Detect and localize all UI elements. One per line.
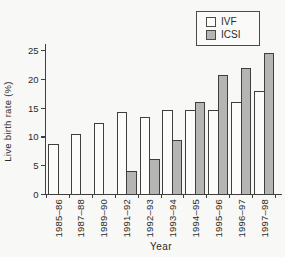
bar-icsi-1994–95 [195, 102, 205, 194]
bar-ivf-1989–90 [94, 124, 104, 195]
bar-icsi-1995–96 [218, 75, 228, 194]
x-tick-label-1987–88: 1987–88 [75, 199, 86, 237]
bar-ivf-1994–95 [186, 111, 196, 195]
bar-icsi-1993–94 [172, 140, 182, 194]
bar-ivf-1996–97 [232, 103, 242, 195]
ivf-swatch-icon [206, 17, 216, 27]
y-tick-label: 25 [28, 45, 39, 56]
bar-ivf-1992–93 [140, 118, 150, 195]
y-tick-label: 15 [28, 103, 39, 114]
y-tick-label: 5 [33, 160, 38, 171]
bar-icsi-1991–92 [127, 171, 136, 194]
bar-icsi-1996–97 [241, 68, 251, 194]
bar-ivf-1993–94 [163, 111, 173, 195]
y-tick-label: 0 [33, 189, 38, 200]
x-tick-label-1996–97: 1996–97 [236, 199, 247, 237]
bar-icsi-1992–93 [150, 160, 160, 195]
bar-ivf-1997–98 [255, 92, 265, 195]
y-axis-title: Live birth rate (%) [2, 47, 17, 197]
x-tick-label-1991–92: 1991–92 [121, 199, 132, 237]
legend-label-ivf: IVF [221, 15, 237, 28]
x-tick-label-1997–98: 1997–98 [259, 199, 270, 237]
x-tick-label-1992–93: 1992–93 [144, 199, 155, 237]
icsi-swatch-icon [206, 30, 216, 40]
bar-ivf-1987–88 [71, 135, 81, 195]
figure-ivf-icsi-live-birth-rate: 05101520251985–861987–881989–901991–9219… [0, 0, 285, 257]
bar-ivf-1985–86 [49, 144, 59, 194]
x-tick-label-1994–95: 1994–95 [190, 199, 201, 237]
legend: IVF ICSI [196, 11, 260, 46]
legend-item-ivf: IVF [206, 15, 259, 28]
y-tick-label: 20 [28, 74, 39, 85]
bar-ivf-1991–92 [117, 113, 127, 195]
bar-ivf-1995–96 [209, 110, 219, 194]
x-axis-title: Year [121, 241, 201, 252]
x-tick-label-1995–96: 1995–96 [213, 199, 224, 237]
legend-item-icsi: ICSI [206, 28, 259, 41]
x-tick-label-1993–94: 1993–94 [167, 199, 178, 237]
legend-label-icsi: ICSI [221, 28, 240, 41]
y-tick-label: 10 [28, 131, 39, 142]
x-tick-label-1989–90: 1989–90 [98, 199, 109, 237]
x-tick-label-1985–86: 1985–86 [53, 199, 64, 237]
bar-icsi-1997–98 [264, 53, 274, 194]
